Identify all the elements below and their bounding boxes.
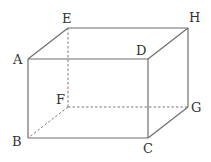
vertex-label-A: A <box>12 52 23 67</box>
edge-AE <box>28 28 68 59</box>
vertex-label-B: B <box>12 134 22 149</box>
vertex-label-H: H <box>189 10 200 25</box>
vertex-label-C: C <box>143 141 153 156</box>
edge-HD <box>148 28 188 59</box>
vertex-label-F: F <box>56 92 65 107</box>
cuboid-diagram: A E H D F B C G <box>0 0 211 162</box>
vertex-label-G: G <box>191 100 201 115</box>
cuboid-svg: A E H D F B C G <box>0 0 211 162</box>
vertex-label-E: E <box>62 11 72 26</box>
edge-GC <box>148 107 188 138</box>
hidden-edge-FB <box>28 107 68 138</box>
vertex-label-D: D <box>136 43 146 58</box>
